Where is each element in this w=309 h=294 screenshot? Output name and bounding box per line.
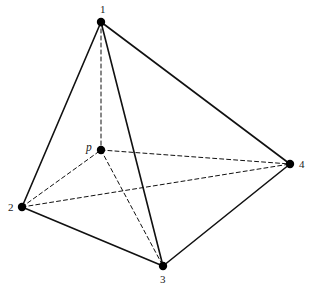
vertex-label-4: 4 <box>299 159 305 170</box>
edges-layer <box>22 22 290 266</box>
vertex-label-1: 1 <box>100 4 106 15</box>
edge-p-3 <box>101 150 163 266</box>
vertex-dot-1 <box>97 18 105 26</box>
vertex-label-p: p <box>86 142 92 154</box>
edge-1-3 <box>101 22 163 266</box>
vertex-label-3: 3 <box>160 274 166 285</box>
nodes-layer <box>18 18 294 270</box>
figure-canvas: 1234p <box>0 0 309 294</box>
vertex-dot-2 <box>18 203 26 211</box>
vertex-dot-4 <box>286 160 294 168</box>
edge-2-3 <box>22 207 163 266</box>
edge-3-4 <box>163 164 290 266</box>
edge-2-4 <box>22 164 290 207</box>
vertex-dot-3 <box>159 262 167 270</box>
edge-1-2 <box>22 22 101 207</box>
edge-p-4 <box>101 150 290 164</box>
edge-1-4 <box>101 22 290 164</box>
vertex-dot-p <box>97 146 105 154</box>
tetrahedron-svg <box>0 0 309 294</box>
vertex-label-2: 2 <box>8 202 14 213</box>
